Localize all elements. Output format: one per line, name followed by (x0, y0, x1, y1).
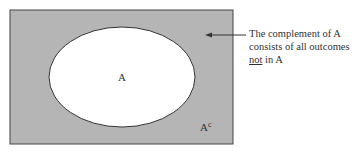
venn-diagram: A Ac (0, 0, 360, 152)
event-a-label: A (118, 71, 126, 83)
complement-annotation: The complement of A consists of all outc… (249, 27, 359, 66)
annotation-line-3: not in A (249, 53, 359, 66)
annotation-line-2: consists of all outcomes (249, 40, 359, 53)
annotation-rest: in A (262, 54, 282, 65)
annotation-not: not (249, 54, 262, 65)
annotation-line-1: The complement of A (249, 27, 359, 40)
